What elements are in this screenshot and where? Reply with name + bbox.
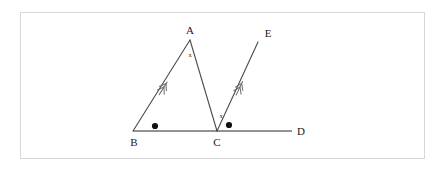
point-label-B: B	[130, 136, 137, 148]
angle-mark-A-label: x	[188, 51, 192, 58]
geometry-diagram-canvas: x x A B C D E	[0, 0, 446, 171]
angle-mark-ABC-dot	[152, 123, 158, 129]
point-label-E: E	[265, 27, 272, 39]
segment-AC	[190, 40, 217, 131]
angle-mark-ECD-dot	[226, 122, 232, 128]
point-label-A: A	[186, 24, 194, 36]
figure-root: x x A B C D E	[0, 0, 446, 171]
point-label-C: C	[213, 136, 220, 148]
point-label-D: D	[297, 125, 305, 137]
